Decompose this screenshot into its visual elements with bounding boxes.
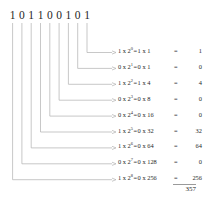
equation-expression: 0 x 24=0 x 16 xyxy=(118,111,154,118)
equation-rows: 1 x 20=1 x 1=10 x 21=0 x 1=01 x 22=1 x 4… xyxy=(0,0,204,200)
row-value: 32 xyxy=(174,127,202,134)
equation-row: 0 x 21=0 x 1=0 xyxy=(118,63,204,74)
equation-row: 1 x 25=0 x 32=32 xyxy=(118,127,204,138)
row-value: 0 xyxy=(174,63,202,70)
equation-expression: 0 x 21=0 x 1 xyxy=(118,63,150,70)
row-value: 0 xyxy=(174,95,202,102)
row-value: 64 xyxy=(174,142,202,149)
equation-row: 1 x 20=1 x 1=1 xyxy=(118,47,204,58)
total-value: 357 xyxy=(168,185,196,193)
equation-expression: 1 x 22=1 x 4 xyxy=(118,79,150,86)
row-value: 0 xyxy=(174,158,202,165)
equation-row: 1 x 22=1 x 4=4 xyxy=(118,79,204,90)
row-value: 0 xyxy=(174,111,202,118)
equation-expression: 1 x 20=1 x 1 xyxy=(118,47,150,54)
equation-row: 0 x 23=0 x 8=0 xyxy=(118,95,204,106)
equation-expression: 1 x 28=0 x 256 xyxy=(118,174,157,181)
equation-expression: 1 x 25=0 x 32 xyxy=(118,127,154,134)
row-value: 1 xyxy=(174,47,202,54)
equation-row: 0 x 27=0 x 128=0 xyxy=(118,158,204,169)
row-value: 4 xyxy=(174,79,202,86)
equation-row: 0 x 24=0 x 16=0 xyxy=(118,111,204,122)
equation-expression: 1 x 26=0 x 64 xyxy=(118,142,154,149)
equation-row: 1 x 26=0 x 64=64 xyxy=(118,142,204,153)
equation-expression: 0 x 23=0 x 8 xyxy=(118,95,150,102)
row-value: 256 xyxy=(174,174,202,181)
equation-expression: 0 x 27=0 x 128 xyxy=(118,158,157,165)
